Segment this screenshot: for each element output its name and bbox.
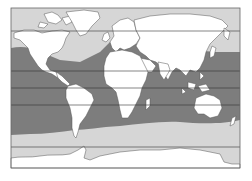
world-map-svg [0, 0, 252, 181]
world-map [0, 0, 252, 181]
